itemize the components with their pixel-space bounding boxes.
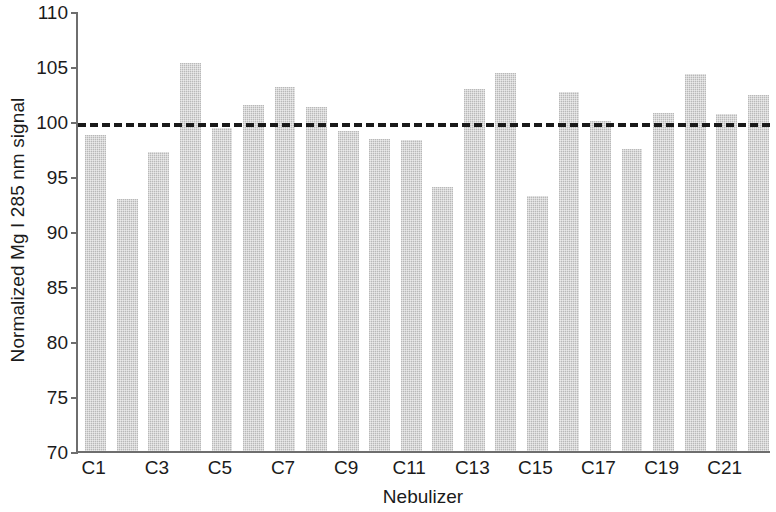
- bar: [369, 139, 390, 451]
- y-tick-label: 75: [30, 387, 68, 409]
- bar: [464, 89, 485, 451]
- bar: [748, 95, 769, 451]
- bar: [653, 113, 674, 451]
- plot-inner: [78, 13, 770, 451]
- y-tick-mark: [71, 177, 78, 179]
- y-tick-label: 95: [30, 167, 68, 189]
- y-tick-label: 85: [30, 277, 68, 299]
- x-tick-label: C17: [581, 457, 616, 479]
- x-tick-label: C3: [145, 457, 169, 479]
- bar: [527, 196, 548, 451]
- bar: [338, 131, 359, 451]
- y-tick-mark: [71, 232, 78, 234]
- bar: [117, 199, 138, 451]
- bar: [559, 92, 580, 451]
- bar: [495, 73, 516, 451]
- x-tick-label: C21: [707, 457, 742, 479]
- y-tick-mark: [71, 122, 78, 124]
- bar: [622, 149, 643, 452]
- y-tick-mark: [71, 452, 78, 454]
- x-tick-label: C1: [82, 457, 106, 479]
- y-tick-mark: [71, 12, 78, 14]
- x-tick-label: C11: [392, 457, 425, 479]
- x-axis-label: Nebulizer: [76, 486, 770, 508]
- y-tick-label: 110: [30, 2, 68, 24]
- bar: [716, 114, 737, 451]
- x-tick-label: C13: [455, 457, 490, 479]
- bar: [85, 135, 106, 451]
- y-tick-mark: [71, 67, 78, 69]
- y-tick-label: 80: [30, 332, 68, 354]
- y-axis-tick-labels: 707580859095100105110: [26, 0, 68, 512]
- bar: [401, 140, 422, 451]
- bar: [243, 105, 264, 452]
- reference-line: [78, 123, 770, 127]
- bar: [148, 152, 169, 451]
- bar: [180, 63, 201, 451]
- bar: [275, 87, 296, 451]
- bar-chart-figure: Normalized Mg I 285 nm signal 7075808590…: [0, 0, 776, 512]
- x-tick-label: C5: [208, 457, 232, 479]
- y-tick-mark: [71, 342, 78, 344]
- y-tick-label: 100: [30, 112, 68, 134]
- y-tick-label: 90: [30, 222, 68, 244]
- bar: [306, 107, 327, 451]
- x-tick-label: C7: [271, 457, 295, 479]
- plot-area: [76, 13, 770, 453]
- bar: [685, 74, 706, 451]
- y-tick-label: 70: [30, 442, 68, 464]
- bar: [432, 187, 453, 451]
- y-tick-mark: [71, 287, 78, 289]
- bar: [590, 121, 611, 451]
- x-tick-label: C19: [644, 457, 679, 479]
- y-tick-mark: [71, 397, 78, 399]
- x-axis-tick-labels: C1C3C5C7C9C11C13C15C17C19C21: [76, 457, 776, 483]
- bar: [212, 128, 233, 451]
- x-tick-label: C9: [334, 457, 358, 479]
- y-tick-label: 105: [30, 57, 68, 79]
- x-tick-label: C15: [518, 457, 553, 479]
